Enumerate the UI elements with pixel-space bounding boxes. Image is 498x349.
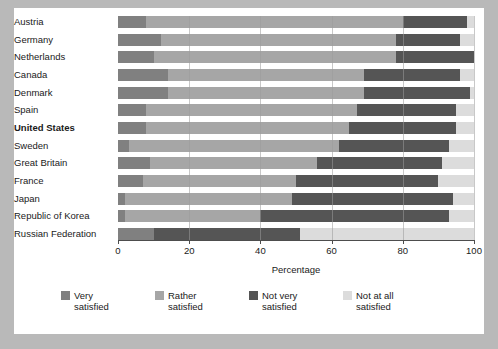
x-axis-tick-label: 20 [184,245,195,256]
bar-segment [118,34,161,46]
x-axis-tick [474,240,475,244]
x-axis-tick-label: 80 [398,245,409,256]
y-axis-label: Canada [14,69,112,81]
chart-figure: AustriaGermanyNetherlandsCanadaDenmarkSp… [14,8,484,334]
legend-label: Rathersatisfied [168,290,203,312]
legend-label-line1: Very [74,290,109,301]
x-axis-tick-label: 0 [115,245,120,256]
bar-segment [460,34,474,46]
x-axis-line [118,240,474,241]
legend-item: Rathersatisfied [155,290,249,326]
bar-row [118,87,474,99]
bar-segment [449,140,474,152]
bar-segment [364,87,471,99]
bar-segment [118,210,125,222]
x-axis-tick [403,240,404,244]
y-axis-label: Sweden [14,140,112,152]
bar-segment [143,175,296,187]
bar-segment [118,69,168,81]
legend-item: Not at allsatisfied [343,290,437,326]
legend-label-line1: Not very [262,290,297,301]
bar-segment [456,104,474,116]
bar-row [118,16,474,28]
bar-segment [438,175,474,187]
legend-label-line2: satisfied [74,301,109,312]
bar-segment [460,69,474,81]
bar-segment [296,175,438,187]
bar-row [118,175,474,187]
bar-segment [339,140,449,152]
bar-segment [470,87,474,99]
legend-label-line1: Rather [168,290,203,301]
bar-segment [403,16,467,28]
bar-row [118,69,474,81]
legend-swatch-icon [155,291,164,300]
y-axis-label: Spain [14,104,112,116]
y-axis-label: France [14,175,112,187]
bar-row [118,157,474,169]
gridline [474,16,475,240]
bar-segment [118,157,150,169]
x-axis-tick [118,240,119,244]
y-axis-label: Denmark [14,87,112,99]
legend-item: Not verysatisfied [249,290,343,326]
bar-segment [396,34,460,46]
y-axis-label: Germany [14,34,112,46]
bar-segment [154,51,396,63]
bar-row [118,104,474,116]
bar-segment [118,175,143,187]
legend-label: Not at allsatisfied [356,290,394,312]
y-axis-label: Republic of Korea [14,210,112,222]
legend-label: Verysatisfied [74,290,109,312]
bar-segment [118,51,154,63]
legend-label-line2: satisfied [262,301,297,312]
bar-segment [467,16,474,28]
bar-segment [154,228,300,240]
bar-segment [161,34,396,46]
bar-row [118,210,474,222]
x-axis-tick-label: 60 [326,245,337,256]
bar-segment [168,69,364,81]
legend-item: Verysatisfied [61,290,155,326]
bar-segment [125,193,292,205]
plot-area [118,16,474,240]
bar-segment [456,122,474,134]
bar-segment [118,16,146,28]
y-axis-label: United States [14,122,112,134]
bar-segment [453,193,474,205]
y-axis-category-labels: AustriaGermanyNetherlandsCanadaDenmarkSp… [14,16,112,240]
legend-swatch-icon [249,291,258,300]
legend-label: Not verysatisfied [262,290,297,312]
bar-segment [364,69,460,81]
bar-segment [125,210,260,222]
bar-segment [292,193,452,205]
bar-segment [118,87,168,99]
bar-segment [118,122,146,134]
bar-segment [357,104,457,116]
bar-segment [118,140,129,152]
bar-row [118,122,474,134]
bar-segment [146,122,349,134]
x-axis-tick-label: 100 [466,245,482,256]
bar-segment [150,157,317,169]
legend-label-line2: satisfied [356,301,394,312]
bar-row [118,34,474,46]
x-axis-title: Percentage [118,264,474,275]
legend-label-line2: satisfied [168,301,203,312]
bar-row [118,193,474,205]
bar-segment [442,157,474,169]
y-axis-label: Great Britain [14,157,112,169]
bar-segment [349,122,456,134]
bar-segment [300,228,474,240]
bar-segment [146,16,402,28]
bar-segment [146,104,356,116]
chart-legend: VerysatisfiedRathersatisfiedNot verysati… [14,290,484,326]
bar-row [118,51,474,63]
y-axis-label: Netherlands [14,51,112,63]
bar-segment [449,210,474,222]
bar-segment [396,51,474,63]
x-axis-tick [332,240,333,244]
y-axis-label: Japan [14,193,112,205]
x-axis-tick [189,240,190,244]
bar-segment [317,157,442,169]
